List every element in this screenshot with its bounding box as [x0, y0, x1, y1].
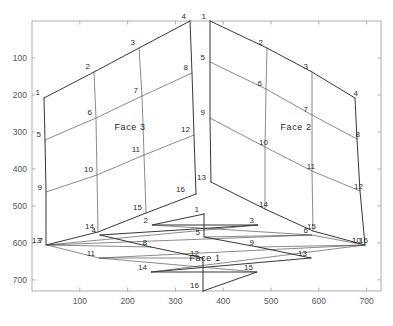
node-number-label: 1 — [202, 12, 207, 21]
node-number-label: 11 — [132, 145, 141, 154]
node-number-label: 1 — [36, 88, 41, 97]
node-number-label: 3 — [304, 62, 309, 71]
node-number-label: 5 — [196, 228, 201, 237]
node-number-label: 12 — [354, 182, 363, 191]
mesh-row-line — [210, 21, 355, 98]
x-axis-tick-labels: 100200300400500600700 — [73, 296, 374, 306]
mesh-row-line — [46, 194, 196, 245]
node-number-labels: 1234567891011121314151612345678910111213… — [32, 12, 368, 290]
node-number-label: 1 — [195, 205, 200, 214]
mesh-col-line — [100, 235, 203, 291]
node-number-label: 10 — [259, 138, 268, 147]
mesh-col-line — [44, 98, 46, 245]
y-tick-label: 400 — [13, 164, 27, 174]
node-number-label: 9 — [201, 108, 206, 117]
node-number-label: 15 — [307, 222, 316, 231]
node-number-label: 16 — [176, 185, 185, 194]
node-number-label: 15 — [133, 203, 142, 212]
face-label: Face 1 — [189, 253, 220, 263]
y-tick-label: 300 — [13, 127, 27, 137]
y-tick-label: 700 — [13, 275, 27, 285]
node-number-label: 3 — [131, 38, 136, 47]
node-number-label: 12 — [181, 125, 190, 134]
node-number-label: 14 — [259, 200, 268, 209]
node-number-label: 6 — [304, 226, 309, 235]
node-number-label: 11 — [87, 249, 96, 258]
x-tick-label: 500 — [264, 296, 278, 306]
mesh-face — [210, 21, 365, 245]
y-tick-label: 100 — [13, 53, 27, 63]
node-number-label: 11 — [307, 162, 316, 171]
mesh-row-line — [44, 21, 190, 98]
node-number-label: 5 — [201, 53, 206, 62]
node-number-label: 7 — [39, 236, 44, 245]
mesh-row-line — [100, 214, 258, 235]
figure-root: 100200300400500600700 100200300400500600… — [0, 0, 393, 326]
node-number-label: 8 — [184, 63, 189, 72]
node-number-label: 9 — [38, 183, 43, 192]
node-number-label: 2 — [86, 62, 91, 71]
node-number-label: 15 — [244, 263, 253, 272]
x-tick-label: 700 — [360, 296, 374, 306]
node-number-label: 10 — [352, 236, 361, 245]
x-tick-label: 200 — [121, 296, 135, 306]
node-number-label: 9 — [250, 238, 255, 247]
node-number-label: 2 — [259, 38, 264, 47]
y-tick-label: 200 — [13, 90, 27, 100]
mesh-face — [44, 21, 196, 245]
y-axis-tick-labels: 100200300400500600700 — [13, 53, 27, 285]
y-tick-label: 500 — [13, 201, 27, 211]
node-number-label: 13 — [197, 173, 206, 182]
node-number-label: 7 — [304, 105, 309, 114]
face-label: Face 2 — [280, 122, 311, 132]
x-tick-label: 300 — [168, 296, 182, 306]
node-number-label: 6 — [258, 79, 263, 88]
node-number-label: 4 — [182, 12, 187, 21]
node-number-label: 3 — [250, 216, 255, 225]
mesh-col-line — [312, 72, 313, 231]
node-number-label: 14 — [138, 263, 147, 272]
node-number-label: 5 — [37, 130, 42, 139]
node-number-label: 4 — [354, 89, 359, 98]
face-label: Face 3 — [114, 122, 145, 132]
x-tick-label: 600 — [312, 296, 326, 306]
x-tick-label: 400 — [216, 296, 230, 306]
node-number-label: 7 — [134, 86, 139, 95]
mesh-col-line — [94, 72, 98, 232]
mesh-col-line — [190, 21, 196, 194]
node-number-label: 13 — [298, 249, 307, 258]
node-number-label: 10 — [84, 165, 93, 174]
node-number-label: 6 — [88, 108, 93, 117]
mesh-col-line — [265, 48, 267, 209]
node-number-label: 8 — [356, 130, 361, 139]
node-number-label: 16 — [190, 281, 199, 290]
axes-frame — [32, 21, 381, 291]
y-tick-label: 600 — [13, 238, 27, 248]
node-number-label: 8 — [143, 238, 148, 247]
node-number-label: 2 — [144, 216, 149, 225]
mesh-col-line — [355, 98, 365, 245]
mesh-row-line — [151, 258, 311, 291]
mesh-plot: 100200300400500600700 100200300400500600… — [0, 0, 393, 326]
node-number-label: 4 — [92, 226, 97, 235]
x-tick-label: 100 — [73, 296, 87, 306]
mesh-col-line — [210, 21, 211, 182]
mesh-row-line — [46, 135, 194, 192]
